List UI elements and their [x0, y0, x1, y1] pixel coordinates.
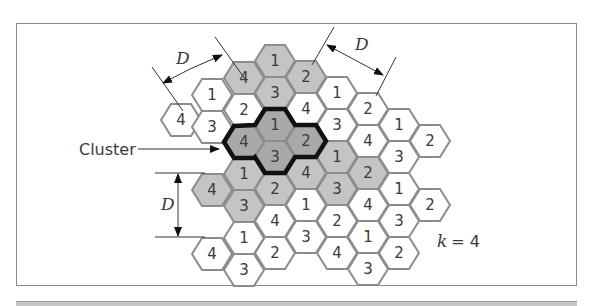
- cluster-annotation: Cluster: [79, 140, 219, 159]
- hex-cell-label: 2: [363, 100, 373, 118]
- hex-cell-label: 4: [301, 100, 311, 118]
- hex-cell-label: 1: [239, 229, 249, 247]
- hex-cell-label: 4: [301, 164, 311, 182]
- hex-cell-label: 2: [239, 101, 249, 119]
- hex-cell-label: 1: [394, 116, 404, 134]
- hex-cell-label: 3: [332, 180, 342, 198]
- hex-cell-label: 3: [239, 261, 249, 279]
- distance-label: D: [160, 194, 175, 214]
- hex-cell-label: 1: [270, 52, 280, 70]
- hex-reuse-diagram: 4134442413131313242242413131324242413131…: [0, 0, 592, 306]
- hex-cell-label: 4: [363, 196, 373, 214]
- hex-cell-label: 3: [270, 148, 280, 166]
- hex-cell-label: 1: [301, 196, 311, 214]
- hex-cell-label: 4: [207, 245, 217, 263]
- distance-label: D: [354, 34, 369, 54]
- hex-cell-label: 1: [363, 228, 373, 246]
- hex-cell-label: 2: [394, 244, 404, 262]
- hex-cell-label: 1: [207, 86, 217, 104]
- hex-cell-label: 3: [363, 260, 373, 278]
- hex-cell-label: 1: [239, 165, 249, 183]
- hex-cell-label: 3: [394, 212, 404, 230]
- hex-cell-label: 4: [176, 111, 186, 129]
- reuse-factor-value: 4: [470, 232, 480, 251]
- hex-cell-label: 2: [270, 180, 280, 198]
- reuse-factor-label: k=4: [437, 231, 480, 251]
- cluster-label: Cluster: [79, 140, 136, 159]
- reuse-factor-symbol: k: [437, 231, 447, 251]
- hex-cell-label: 4: [239, 133, 249, 151]
- hex-cell-label: 1: [332, 148, 342, 166]
- hex-cell-label: 2: [425, 196, 435, 214]
- hex-cell-label: 4: [270, 212, 280, 230]
- hex-cell-label: 1: [332, 84, 342, 102]
- hex-cell-label: 3: [207, 118, 217, 136]
- hex-cell-label: 2: [270, 244, 280, 262]
- hex-cell-label: 3: [301, 228, 311, 246]
- equals-sign: =: [451, 232, 464, 251]
- hex-cell-label: 2: [425, 132, 435, 150]
- hex-cell-label: 1: [270, 116, 280, 134]
- distance-label: D: [175, 48, 190, 68]
- hex-cell-label: 2: [301, 68, 311, 86]
- hex-cell-label: 2: [301, 132, 311, 150]
- hex-cell-label: 3: [394, 148, 404, 166]
- hex-cell-label: 2: [332, 212, 342, 230]
- hex-cell-label: 1: [394, 180, 404, 198]
- hex-cell-label: 2: [363, 164, 373, 182]
- hex-cell-label: 4: [363, 132, 373, 150]
- hex-cell-label: 4: [207, 181, 217, 199]
- hex-cell-label: 3: [332, 116, 342, 134]
- hex-cell-label: 4: [332, 244, 342, 262]
- hex-cell-label: 3: [270, 84, 280, 102]
- hex-cell-label: 3: [239, 197, 249, 215]
